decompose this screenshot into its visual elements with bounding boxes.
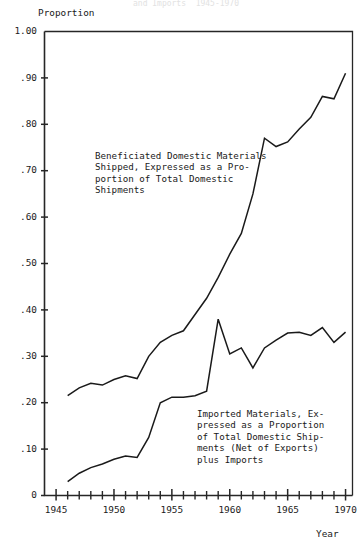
chart-root: and Imports 1945-1970 Proportion Year 1.…	[0, 0, 364, 550]
plot-area	[0, 0, 364, 550]
data-series-group	[68, 73, 346, 481]
series-line-1	[68, 319, 346, 481]
plot-frame	[45, 32, 353, 496]
axis-ticks	[41, 78, 346, 501]
series-line-0	[68, 73, 346, 395]
